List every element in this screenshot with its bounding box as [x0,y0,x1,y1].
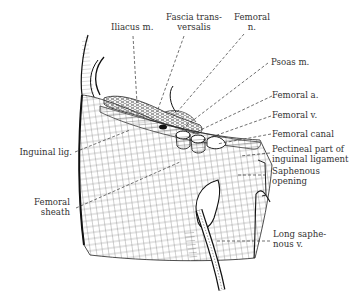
label-femoral-vein: Femoral v. [272,111,317,121]
label-iliacus-muscle: Iliacus m. [111,23,153,33]
label-inguinal-ligament: Inguinal lig. [4,148,72,158]
label-text: inguinal ligament [272,155,349,165]
label-psoas-muscle: Psoas m. [271,58,309,68]
label-text: Inguinal lig. [19,147,72,157]
label-text: Psoas m. [271,57,309,67]
label-text: Femoral canal [272,129,334,139]
label-pectineal-ligament: Pectineal part of inguinal ligament [272,145,349,164]
label-text: versalis [166,23,222,33]
label-fascia-transversalis: Fascia trans- versalis [166,13,222,32]
label-femoral-canal: Femoral canal [272,130,334,140]
label-text: n. [234,23,270,33]
label-femoral-sheath: Femoral sheath [20,198,70,217]
label-saphenous-opening: Saphenous opening [272,167,320,186]
label-long-saphenous-vein: Long saphe- nous v. [273,230,326,249]
label-text: Femoral v. [272,110,317,120]
label-text: opening [272,177,320,187]
label-femoral-artery: Femoral a. [272,91,318,101]
label-text: nous v. [273,240,326,250]
label-text: Iliacus m. [111,22,153,32]
label-text: sheath [20,208,70,218]
label-femoral-nerve: Femoral n. [234,13,270,32]
label-text: Femoral a. [272,90,318,100]
